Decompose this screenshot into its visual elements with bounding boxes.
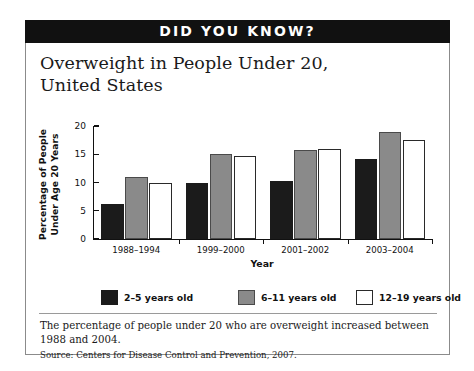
bar: [403, 140, 426, 239]
legend-swatch: [101, 290, 118, 305]
banner-title: DID YOU KNOW?: [25, 20, 450, 43]
x-axis-title: Year: [93, 258, 431, 269]
page-title-line-2: United States: [40, 74, 430, 96]
page-title-line-1: Overweight in People Under 20,: [40, 52, 430, 74]
bar: [318, 149, 341, 239]
y-axis-tick-label: 5: [80, 206, 86, 216]
x-axis-tick-mark: [432, 239, 433, 244]
bar: [125, 177, 148, 239]
did-you-know-card: DID YOU KNOW? Overweight in People Under…: [25, 20, 450, 355]
bar: [270, 181, 293, 239]
legend-item: 6–11 years old: [238, 288, 337, 306]
plot-area: 051015201988–19941999–20002001–20022003–…: [93, 126, 432, 240]
x-axis-tick-label: 2001–2002: [263, 245, 348, 255]
legend-item: 2–5 years old: [101, 288, 193, 306]
y-axis-label-line-1: Percentage of People: [37, 125, 49, 245]
bar: [186, 183, 209, 240]
bar-chart: Percentage of People Under Age 20 Years …: [26, 121, 451, 281]
card-body: Overweight in People Under 20, United St…: [25, 43, 450, 355]
y-axis-tick: 20: [75, 121, 94, 131]
x-axis-tick-mark: [348, 239, 349, 244]
y-axis-tick-label: 10: [75, 178, 86, 188]
bar-group-bars: [348, 126, 433, 239]
x-axis-tick-label: 1999–2000: [179, 245, 264, 255]
bar-group-bars: [179, 126, 264, 239]
bar-group: [94, 126, 179, 239]
y-axis-label-line-2: Under Age 20 Years: [48, 125, 60, 245]
y-axis-tick-label: 20: [75, 121, 86, 131]
y-axis-tick: 0: [80, 234, 94, 244]
chart-legend: 2–5 years old6–11 years old12–19 years o…: [26, 288, 451, 310]
divider: [39, 313, 437, 314]
legend-swatch: [356, 290, 373, 305]
page-root: DID YOU KNOW? Overweight in People Under…: [0, 0, 474, 371]
legend-label: 6–11 years old: [261, 292, 337, 303]
x-axis-tick-mark: [263, 239, 264, 244]
y-axis-tick-label: 15: [75, 149, 86, 159]
y-axis-tick: 15: [75, 149, 94, 159]
legend-label: 2–5 years old: [124, 292, 193, 303]
y-axis-tick-label: 0: [80, 234, 86, 244]
legend-item: 12–19 years old: [356, 288, 461, 306]
bar: [101, 204, 124, 239]
y-axis-tick: 10: [75, 178, 94, 188]
y-axis-label: Percentage of People Under Age 20 Years: [37, 125, 60, 245]
bar: [294, 150, 317, 239]
bar: [149, 183, 172, 240]
x-axis-tick-mark: [179, 239, 180, 244]
bar-group: [263, 126, 348, 239]
bar: [210, 154, 233, 239]
x-axis-tick-label: 2003–2004: [348, 245, 433, 255]
bar-group: [179, 126, 264, 239]
bar-group: [348, 126, 433, 239]
bar: [379, 132, 402, 239]
banner-bar: DID YOU KNOW?: [25, 20, 450, 43]
legend-swatch: [238, 290, 255, 305]
bar-group-bars: [94, 126, 179, 239]
bar-group-bars: [263, 126, 348, 239]
y-axis-tick: 5: [80, 206, 94, 216]
bar: [355, 159, 378, 239]
caption-text: The percentage of people under 20 who ar…: [40, 319, 436, 347]
x-axis-tick-label: 1988–1994: [94, 245, 179, 255]
legend-label: 12–19 years old: [379, 292, 461, 303]
bar: [234, 156, 257, 239]
source-text: Source: Centers for Disease Control and …: [40, 349, 436, 361]
page-title: Overweight in People Under 20, United St…: [40, 52, 430, 96]
